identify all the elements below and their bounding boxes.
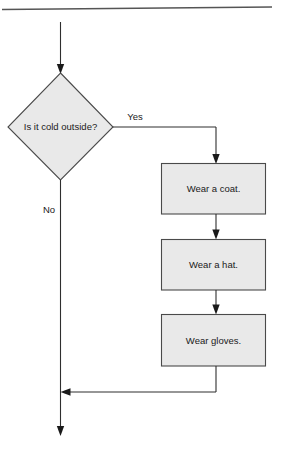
decision-label: Is it cold outside?	[24, 121, 97, 132]
no-branch-label: No	[43, 204, 55, 215]
flowchart-canvas: Is it cold outside? Yes No Wear a coat. …	[0, 0, 284, 464]
yes-branch-arrowhead-icon	[212, 154, 219, 164]
exit-arrowhead-icon	[57, 426, 64, 436]
process-box-2-label: Wear a hat.	[189, 259, 238, 270]
merge-arrowhead-icon	[61, 388, 71, 395]
header-divider-rule	[2, 7, 272, 10]
connector-step2-step3-arrowhead-icon	[212, 305, 219, 315]
yes-branch-label: Yes	[127, 111, 143, 122]
process-box-1-label: Wear a coat.	[187, 183, 241, 194]
flowchart-svg: Is it cold outside? Yes No Wear a coat. …	[0, 0, 284, 464]
process-box-3-label: Wear gloves.	[186, 335, 241, 346]
connector-step1-step2-arrowhead-icon	[212, 230, 219, 240]
